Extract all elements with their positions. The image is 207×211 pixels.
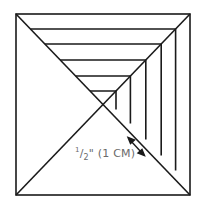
seam-allowance-label: 1/2" (1 CM) — [75, 146, 135, 162]
quilt-block-diagram — [0, 0, 207, 211]
metric-measure: (1 CM) — [94, 147, 135, 160]
fraction-numerator: 1 — [75, 146, 80, 154]
